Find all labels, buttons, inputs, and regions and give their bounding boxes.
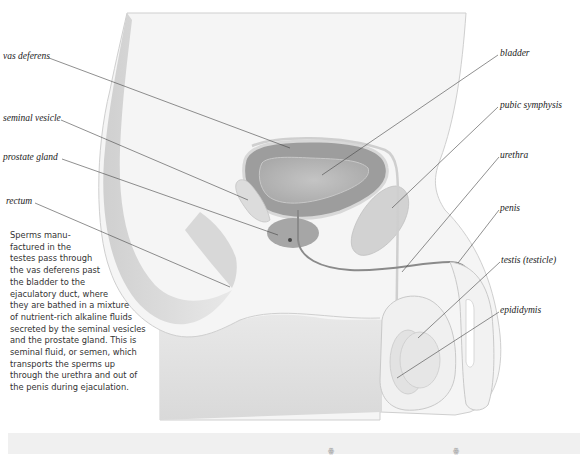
caption-line: and the prostate gland. This is xyxy=(10,335,152,347)
label-testis: testis (testicle) xyxy=(501,256,556,266)
caption-text: Sperms manu- factured in the testes pass… xyxy=(10,230,152,394)
caption-line: testes pass through xyxy=(10,253,152,265)
testis-shape xyxy=(400,332,440,388)
caption-line: they are bathed in a mixture xyxy=(10,300,152,312)
label-epididymis: epididymis xyxy=(500,306,541,316)
caption-line: Sperms manu- xyxy=(10,230,152,242)
strip-glyph: ꙮ xyxy=(328,447,334,455)
caption-line: the penis during ejaculation. xyxy=(10,382,152,394)
label-prostate-gland: prostate gland xyxy=(3,153,58,163)
label-urethra: urethra xyxy=(500,151,528,161)
label-seminal-vesicle: seminal vesicle xyxy=(3,114,61,124)
caption-line: of nutrient-rich alkaline fluids xyxy=(10,312,152,324)
caption-line: transports the sperms up xyxy=(10,359,152,371)
caption-line: the vas deferens past xyxy=(10,265,152,277)
caption-line: through the urethra and out of xyxy=(10,370,152,382)
caption-line: factured in the xyxy=(10,242,152,254)
label-vas-deferens: vas deferens xyxy=(3,52,50,62)
prostate-shape xyxy=(267,218,319,248)
label-pubic-symphysis: pubic symphysis xyxy=(500,101,562,111)
caption-line: the bladder to the xyxy=(10,277,152,289)
label-rectum: rectum xyxy=(6,197,32,207)
label-penis: penis xyxy=(500,204,520,214)
caption-line: seminal fluid, or semen, which xyxy=(10,347,152,359)
label-bladder: bladder xyxy=(500,49,530,59)
caption-line: secreted by the seminal vesicles xyxy=(10,324,152,336)
caption-line: ejaculatory duct, where xyxy=(10,289,152,301)
strip-glyph: ꙮ xyxy=(453,447,459,455)
bottom-strip: ꙮ ꙮ xyxy=(8,433,580,454)
